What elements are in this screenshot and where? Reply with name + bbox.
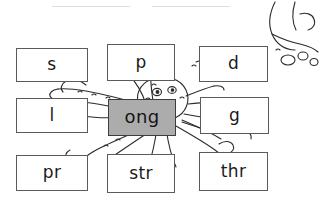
word-card-label: l [49, 107, 54, 125]
worksheet-page: s p d l ong g pr str thr [0, 0, 319, 206]
word-card-str[interactable]: str [107, 154, 175, 193]
word-card-g[interactable]: g [200, 97, 269, 134]
word-card-label: d [228, 55, 239, 73]
word-card-pr[interactable]: pr [16, 155, 88, 191]
word-card-label: str [129, 165, 153, 183]
word-card-ong-rime[interactable]: ong [108, 99, 176, 136]
word-card-label: thr [221, 163, 247, 181]
word-card-l[interactable]: l [16, 98, 88, 133]
word-card-label: p [135, 54, 146, 72]
word-card-thr[interactable]: thr [199, 152, 268, 191]
word-card-label: pr [43, 164, 62, 182]
word-card-label: g [229, 107, 240, 125]
word-card-d[interactable]: d [199, 46, 268, 82]
page-rule-line-right [152, 6, 230, 7]
word-card-label: s [47, 56, 56, 74]
rime-label: ong [124, 108, 159, 127]
word-card-s[interactable]: s [16, 48, 88, 82]
page-rule-line-left [52, 6, 130, 7]
word-card-p[interactable]: p [107, 44, 175, 81]
